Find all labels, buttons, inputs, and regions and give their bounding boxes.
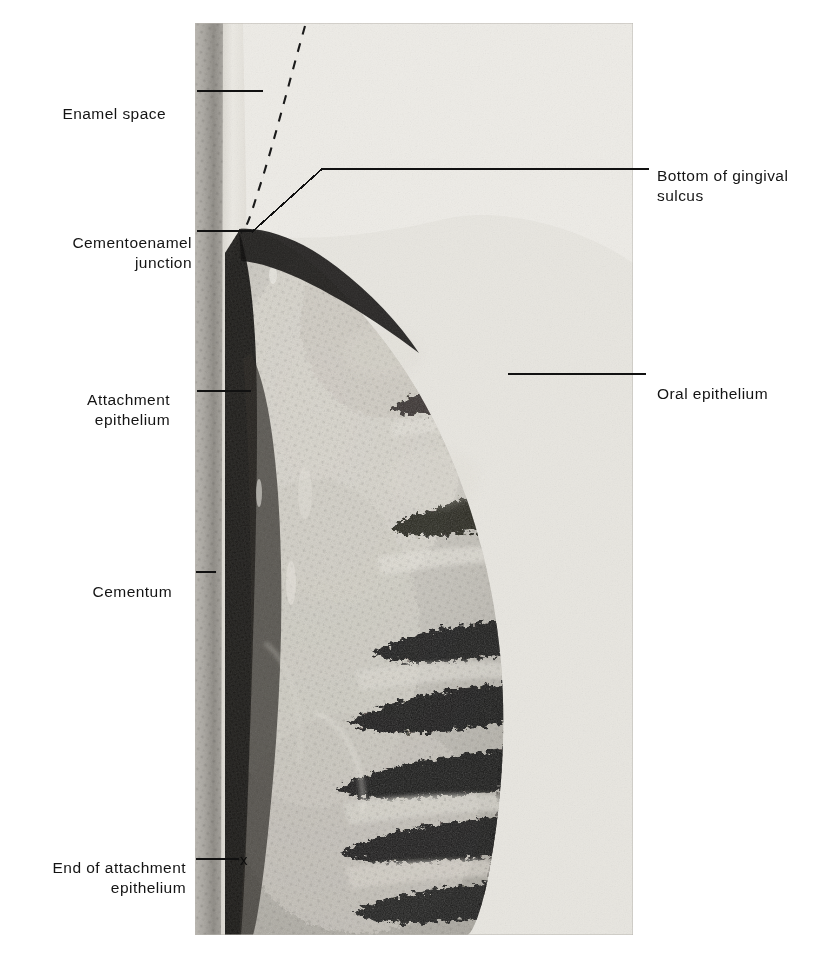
label-bottom-of-gingival-sulcus-text: Bottom of gingival sulcus: [657, 167, 788, 204]
label-cementum: Cementum: [93, 562, 172, 602]
print-grain: [195, 23, 633, 935]
label-enamel-space-text: Enamel space: [62, 105, 166, 122]
label-bottom-of-gingival-sulcus: Bottom of gingival sulcus: [657, 146, 788, 206]
label-oral-epithelium-text: Oral epithelium: [657, 385, 768, 402]
photomicrograph-plate: [195, 23, 633, 935]
label-attachment-epithelium-text: Attachment epithelium: [87, 391, 170, 428]
label-end-of-attachment-epithelium-text: End of attachment epithelium: [53, 859, 186, 896]
histology-image: [195, 23, 633, 935]
label-cementoenamel-junction: Cementoenamel junction: [72, 213, 192, 273]
label-cementum-text: Cementum: [93, 583, 172, 600]
label-oral-epithelium: Oral epithelium: [657, 364, 768, 404]
figure-gingival-sulcus-histology: x Enamel space Cementoenamel junction At…: [0, 0, 837, 964]
label-enamel-space: Enamel space: [62, 84, 166, 124]
label-attachment-epithelium: Attachment epithelium: [87, 370, 170, 430]
label-end-of-attachment-epithelium: End of attachment epithelium: [53, 838, 186, 898]
label-cementoenamel-junction-text: Cementoenamel junction: [72, 234, 192, 271]
